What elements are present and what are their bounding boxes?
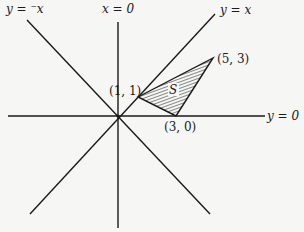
label-region-s: S [169,83,177,97]
label-y-eq-0: y = 0 [266,109,299,123]
label-vertex-1-1: (1, 1) [109,84,141,98]
origin-point [116,114,119,117]
line-y-eq-x [30,14,215,214]
label-y-eq-neg-x: y = ⁻x [5,2,44,16]
label-x-eq-0: x = 0 [102,2,134,16]
label-vertex-5-3: (5, 3) [217,52,249,66]
diagram-canvas: y = ⁻x x = 0 y = x y = 0 (1, 1) (5, 3) (… [0,0,304,232]
label-y-eq-x: y = x [219,3,251,17]
label-vertex-3-0: (3, 0) [164,120,196,134]
